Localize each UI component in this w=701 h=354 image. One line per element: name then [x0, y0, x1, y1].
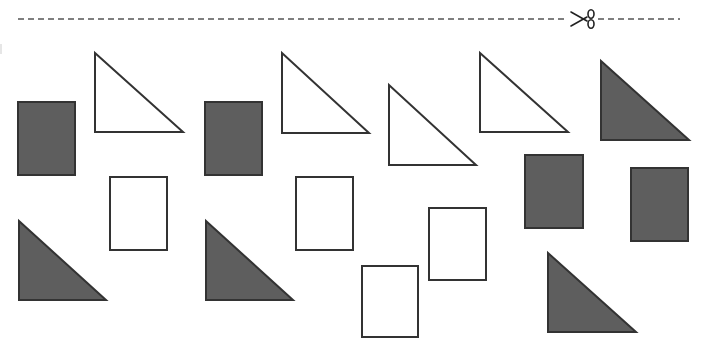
shaded-triangle — [19, 221, 106, 300]
outline-triangle — [389, 85, 476, 165]
shaded-rectangle — [631, 168, 688, 241]
shaded-triangle — [206, 221, 293, 300]
worksheet-canvas — [0, 0, 701, 354]
outline-rectangle — [296, 177, 353, 250]
outline-rectangle — [362, 266, 418, 337]
scissors-icon — [571, 10, 594, 28]
shaded-rectangle — [205, 102, 262, 175]
outline-rectangle — [110, 177, 167, 250]
outline-triangle — [95, 53, 183, 132]
shaded-triangle — [601, 61, 689, 140]
outline-triangle — [282, 53, 369, 133]
cut-line-group — [18, 10, 680, 28]
outline-rectangle — [429, 208, 486, 280]
shaded-rectangle — [18, 102, 75, 175]
outline-triangle — [480, 53, 568, 132]
shaded-rectangle — [525, 155, 583, 228]
shapes-layer — [18, 53, 689, 337]
shaded-triangle — [548, 253, 636, 332]
